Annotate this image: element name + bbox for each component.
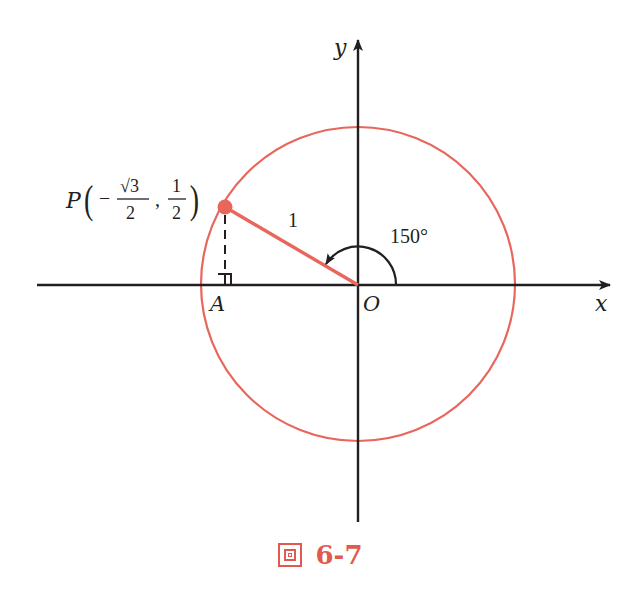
unit-circle-diagram: y x O A 1 150° P ( − √3 2 , 1 2 ) bbox=[0, 0, 640, 596]
y-numerator: 1 bbox=[172, 176, 181, 196]
radius-length-label: 1 bbox=[288, 209, 298, 231]
x-numerator: √3 bbox=[120, 176, 139, 196]
figure-caption: 6-7 bbox=[0, 540, 640, 570]
x-denominator: 2 bbox=[126, 203, 135, 223]
caption-number: 6-7 bbox=[316, 540, 363, 570]
left-paren: ( bbox=[84, 177, 93, 222]
y-axis-label: y bbox=[333, 35, 347, 60]
x-axis-label: x bbox=[595, 291, 608, 316]
x-sign: − bbox=[99, 187, 110, 209]
foot-label-A: A bbox=[208, 292, 225, 316]
separator-comma: , bbox=[155, 188, 160, 210]
y-denominator: 2 bbox=[172, 203, 181, 223]
right-paren: ) bbox=[190, 177, 199, 222]
point-P bbox=[218, 200, 233, 215]
angle-label: 150° bbox=[390, 225, 428, 247]
caption-prefix-glyph bbox=[278, 543, 302, 567]
point-P-label: P bbox=[65, 188, 82, 213]
origin-label: O bbox=[363, 292, 380, 316]
point-P-coordinates: P ( − √3 2 , 1 2 ) bbox=[65, 176, 199, 223]
angle-arc-arrow bbox=[326, 246, 396, 285]
